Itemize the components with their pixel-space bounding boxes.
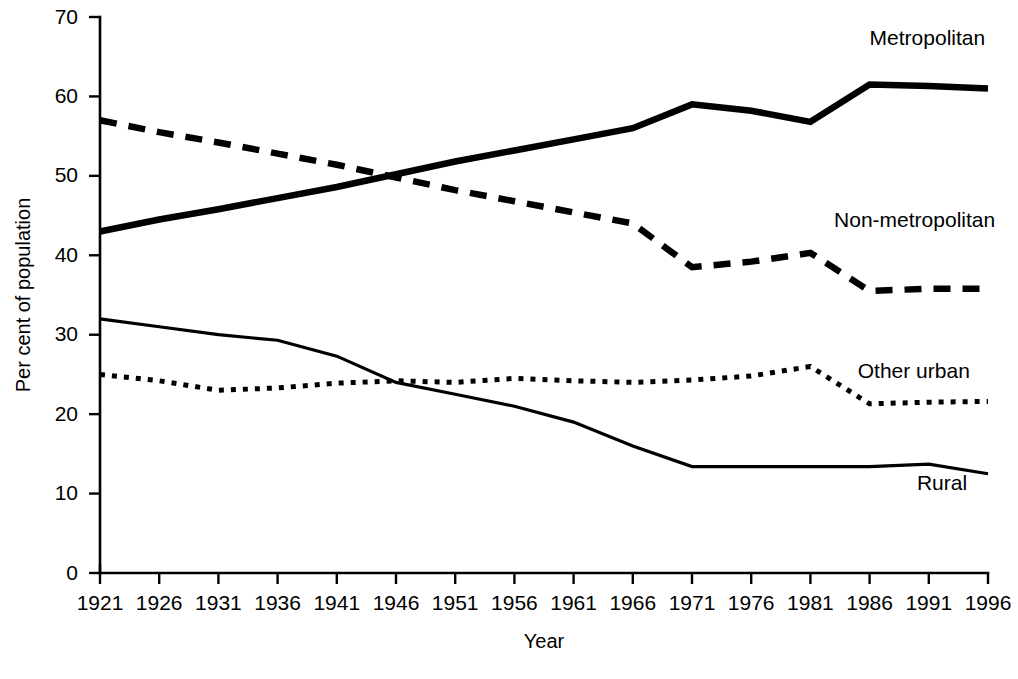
x-axis-tick-label: 1976 (728, 591, 775, 614)
axes: 0102030405060701921192619311936194119461… (55, 5, 1012, 615)
series-labels: MetropolitanNon-metropolitanOther urbanR… (834, 26, 995, 494)
x-axis-tick-label: 1951 (432, 591, 479, 614)
x-axis-tick-label: 1971 (669, 591, 716, 614)
x-axis-tick-label: 1921 (77, 591, 124, 614)
axis-titles: YearPer cent of population (12, 198, 565, 652)
series-label-non-metropolitan: Non-metropolitan (834, 208, 995, 231)
y-axis-title: Per cent of population (12, 198, 34, 393)
x-axis-tick-label: 1931 (195, 591, 242, 614)
y-axis-tick-label: 30 (55, 322, 78, 345)
line-chart-canvas: 0102030405060701921192619311936194119461… (0, 0, 1018, 679)
x-axis-tick-label: 1991 (905, 591, 952, 614)
y-axis-tick-label: 10 (55, 481, 78, 504)
x-axis-tick-label: 1926 (136, 591, 183, 614)
series-lines (100, 85, 988, 474)
series-label-rural: Rural (917, 471, 967, 494)
x-axis-title: Year (524, 630, 565, 652)
series-label-metropolitan: Metropolitan (870, 26, 986, 49)
y-axis-tick-label: 0 (66, 561, 78, 584)
series-line-other-urban (100, 366, 988, 403)
y-axis-tick-label: 60 (55, 84, 78, 107)
x-axis-tick-label: 1966 (609, 591, 656, 614)
chart-figure: 0102030405060701921192619311936194119461… (0, 0, 1018, 679)
x-axis-tick-label: 1936 (254, 591, 301, 614)
x-axis-tick-label: 1956 (491, 591, 538, 614)
series-line-rural (100, 319, 988, 474)
x-axis-tick-label: 1946 (373, 591, 420, 614)
x-axis-tick-label: 1961 (550, 591, 597, 614)
y-axis-tick-label: 70 (55, 5, 78, 28)
y-axis-tick-label: 20 (55, 402, 78, 425)
x-axis-tick-label: 1986 (846, 591, 893, 614)
x-axis-tick-label: 1996 (965, 591, 1012, 614)
x-axis-tick-label: 1981 (787, 591, 834, 614)
x-axis-tick-label: 1941 (313, 591, 360, 614)
y-axis-tick-label: 50 (55, 163, 78, 186)
series-label-other-urban: Other urban (858, 359, 970, 382)
y-axis-tick-label: 40 (55, 243, 78, 266)
